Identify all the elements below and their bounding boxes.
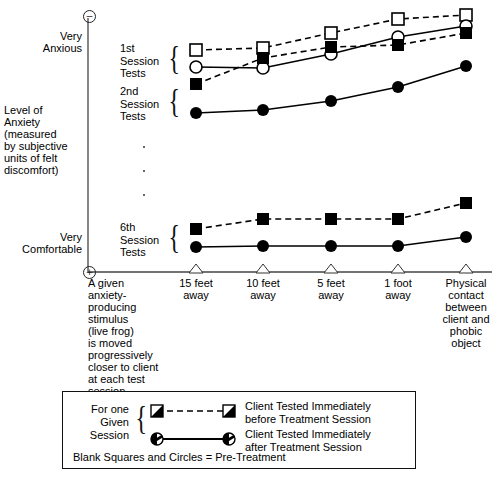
- session-brace-2nd: {: [168, 84, 179, 118]
- legend-entry-before-line2: before Treatment Session: [245, 413, 407, 426]
- x-axis-caption-line7: progressively: [88, 349, 176, 361]
- session-label-2nd-line2: Session: [120, 98, 159, 111]
- session-label-6th-line1: 6th: [120, 221, 159, 234]
- marker-filled-square: [392, 39, 404, 51]
- session-label-1st-line3: Tests: [120, 67, 159, 80]
- y-axis-bottom-label-line1: Very: [8, 231, 82, 243]
- x-tick-label-3-line1: 5 feet: [296, 277, 366, 289]
- session-label-1st-line1: 1st: [120, 42, 159, 55]
- marker-filled-square: [460, 197, 472, 209]
- marker-filled-square: [325, 41, 337, 53]
- y-axis-top-label-line1: Very: [20, 30, 82, 42]
- legend-swatch-before: [147, 402, 239, 420]
- y-axis-top-label: Very Anxious: [20, 30, 82, 54]
- x-tick-label-5-line3: between: [431, 301, 500, 313]
- session-label-1st: 1st Session Tests: [120, 42, 159, 80]
- y-axis-bottom-label-line2: Comfortable: [8, 243, 82, 255]
- x-axis-caption-line8: closer to client: [88, 361, 176, 373]
- marker-filled-circle: [190, 241, 202, 253]
- x-tick-2: [256, 264, 270, 273]
- session-label-2nd-line1: 2nd: [120, 85, 159, 98]
- x-tick-label-5-line1: Physical: [431, 277, 500, 289]
- x-tick-5: [459, 264, 473, 273]
- ellipsis-dot: [143, 194, 145, 196]
- x-tick-label-4-line2: away: [363, 289, 433, 301]
- ellipsis-dot: [143, 170, 145, 172]
- session-label-2nd-line3: Tests: [120, 110, 159, 123]
- legend-group-label-line3: Session: [71, 429, 129, 442]
- x-tick-label-5-line2: contact: [431, 289, 500, 301]
- legend-group-label: For one Given Session: [71, 403, 129, 442]
- x-tick-label-3-line2: away: [296, 289, 366, 301]
- y-axis-title-line4: by subjective: [4, 140, 82, 152]
- y-axis-title: Level of Anxiety (measured by subjective…: [4, 104, 82, 176]
- marker-filled-circle: [460, 231, 472, 243]
- x-tick-label-2-line1: 10 feet: [228, 277, 298, 289]
- marker-half-circle: [223, 433, 235, 445]
- chart-plot-area: [0, 0, 500, 390]
- session-label-6th-line3: Tests: [120, 246, 159, 259]
- marker-open-square: [392, 13, 404, 25]
- marker-half-circle: [151, 433, 163, 445]
- marker-filled-circle: [392, 240, 404, 252]
- x-axis-caption-line6: is moved: [88, 337, 176, 349]
- marker-filled-circle: [257, 104, 269, 116]
- marker-filled-circle: [257, 240, 269, 252]
- marker-open-circle: [190, 61, 202, 73]
- series-6th-after: [190, 231, 472, 253]
- legend-footnote: Blank Squares and Circles = Pre-Treatmen…: [73, 451, 286, 464]
- x-tick-label-3: 5 feet away: [296, 277, 366, 301]
- marker-filled-circle: [392, 81, 404, 93]
- session-label-6th-line2: Session: [120, 234, 159, 247]
- ellipsis-dot: [143, 146, 145, 148]
- x-tick-1: [189, 264, 203, 273]
- x-tick-label-4: 1 foot away: [363, 277, 433, 301]
- y-axis-title-line6: discomfort): [4, 164, 82, 176]
- marker-filled-circle: [460, 60, 472, 72]
- y-axis-title-line5: units of felt: [4, 152, 82, 164]
- marker-filled-square: [392, 213, 404, 225]
- session-brace-6th: {: [168, 220, 179, 254]
- marker-filled-square: [325, 213, 337, 225]
- legend-swatch-after: [147, 430, 239, 448]
- x-tick-label-5-line6: object: [431, 337, 500, 349]
- marker-half-square: [223, 405, 235, 417]
- x-tick-label-2-line2: away: [228, 289, 298, 301]
- series-6th-before: [190, 197, 472, 235]
- series-2nd-after: [190, 60, 472, 119]
- legend-entry-before-line1: Client Tested Immediately: [245, 400, 407, 413]
- x-tick-label-5-line5: phobic: [431, 325, 500, 337]
- y-axis-title-line3: (measured: [4, 128, 82, 140]
- x-tick-label-5-line4: client and: [431, 313, 500, 325]
- x-axis-caption-line2: anxiety-: [88, 289, 176, 301]
- x-axis-caption-line4: stimulus: [88, 313, 176, 325]
- y-axis-minus-icon: −: [83, 10, 96, 23]
- y-axis-top-label-line2: Anxious: [20, 42, 82, 54]
- session-label-2nd: 2nd Session Tests: [120, 85, 159, 123]
- x-tick-label-4-line1: 1 foot: [363, 277, 433, 289]
- marker-filled-square: [190, 223, 202, 235]
- marker-filled-square: [257, 213, 269, 225]
- legend-group-label-line1: For one: [71, 403, 129, 416]
- marker-half-square: [151, 405, 163, 417]
- x-tick-label-5: Physical contact between client and phob…: [431, 277, 500, 349]
- marker-filled-square: [460, 27, 472, 39]
- marker-filled-square: [190, 78, 202, 90]
- x-tick-4: [391, 264, 405, 273]
- legend-entry-before: Client Tested Immediately before Treatme…: [245, 400, 407, 426]
- x-tick-3: [324, 264, 338, 273]
- session-label-1st-line2: Session: [120, 55, 159, 68]
- marker-open-square: [190, 44, 202, 56]
- marker-filled-circle: [325, 240, 337, 252]
- x-tick-label-2: 10 feet away: [228, 277, 298, 301]
- x-axis-caption: A given anxiety- producing stimulus (liv…: [88, 277, 176, 397]
- x-axis-caption-line1: A given: [88, 277, 176, 289]
- chart-legend: For one Given Session { Client Tested Im…: [62, 391, 416, 469]
- session-brace-1st: {: [168, 41, 179, 75]
- marker-filled-circle: [190, 107, 202, 119]
- y-axis-bottom-label: Very Comfortable: [8, 231, 82, 255]
- x-axis-caption-line9: at each test: [88, 373, 176, 385]
- session-label-6th: 6th Session Tests: [120, 221, 159, 259]
- legend-brace: {: [135, 401, 146, 435]
- y-axis-title-line2: Anxiety: [4, 116, 82, 128]
